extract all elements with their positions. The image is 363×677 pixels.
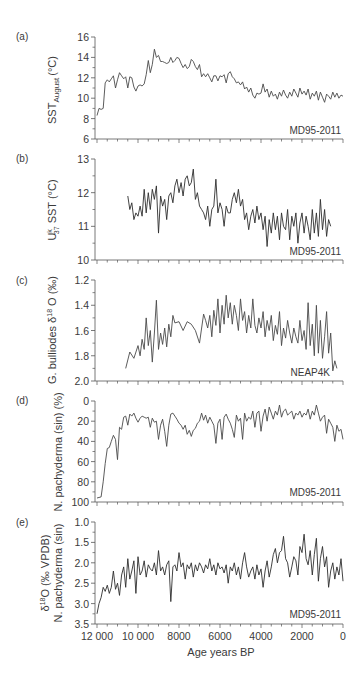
svg-text:1.2: 1.2 (74, 274, 89, 286)
panel-c: (c) G. bulliodes δ18 O (‰) NEAP4K 1.21.4… (16, 274, 343, 387)
svg-text:3.5: 3.5 (74, 618, 89, 630)
svg-text:80: 80 (77, 476, 89, 488)
x-axis-c (95, 381, 343, 385)
svg-text:60: 60 (77, 456, 89, 468)
y-axis-c: 1.21.41.61.82.0 (74, 274, 95, 387)
svg-text:1.8: 1.8 (74, 350, 89, 362)
x-axis-a (95, 139, 343, 143)
panel-label-b: (b) (16, 153, 28, 164)
panel-a: (a) SSTAugust(°C) MD95-2011 6810121416 (16, 31, 343, 145)
svg-text:1.6: 1.6 (74, 325, 89, 337)
panel-label-e: (e) (16, 517, 28, 528)
y-axis-label-d: N. pachyderma (sin) (%) (52, 392, 64, 511)
data-line-b (128, 169, 331, 246)
panel-b: (b) Uk37 SST (°C) MD95-2011 10111213 (16, 153, 343, 266)
x-axis-b (95, 260, 343, 264)
data-line-e (97, 534, 343, 614)
x-axis-e (95, 624, 343, 628)
svg-text:4000: 4000 (249, 630, 273, 642)
core-label-e: MD95-2011 (289, 609, 341, 620)
x-axis-label: Age years BP (187, 646, 254, 658)
svg-text:16: 16 (77, 31, 89, 43)
svg-text:40: 40 (77, 435, 89, 447)
y-axis-label-b: Uk37 SST (°C) (46, 179, 60, 240)
y-axis-label-c: G. bulliodes δ18 O (‰) (46, 276, 58, 384)
svg-text:12: 12 (77, 187, 89, 199)
panel-label-c: (c) (16, 275, 28, 286)
figure: (a) SSTAugust(°C) MD95-2011 6810121416 (… (0, 0, 363, 677)
svg-text:10 000: 10 000 (122, 630, 154, 642)
svg-text:2000: 2000 (290, 630, 314, 642)
x-tick-labels: 12 00010 00080006000400020000 (81, 630, 346, 642)
svg-text:1.0: 1.0 (74, 516, 89, 528)
panel-label-d: (d) (16, 395, 28, 406)
svg-text:20: 20 (77, 415, 89, 427)
svg-text:0: 0 (340, 630, 346, 642)
svg-text:6: 6 (83, 133, 89, 145)
core-label-d: MD95-2011 (289, 487, 341, 498)
panel-label-a: (a) (16, 31, 28, 42)
svg-text:2.0: 2.0 (74, 375, 89, 387)
y-axis-label-e-line2: N. pachyderma (sin) (52, 523, 64, 622)
svg-text:0: 0 (83, 395, 89, 407)
core-label-c: NEAP4K (291, 367, 331, 378)
svg-text:8: 8 (83, 113, 89, 125)
panel-d: (d) N. pachyderma (sin) (%) MD95-2011 02… (16, 392, 343, 511)
y-axis-b: 10111213 (77, 153, 95, 266)
y-axis-e: 1.01.52.02.53.03.5 (74, 516, 95, 630)
panel-e: (e) δ18O (‰ VPDB) N. pachyderma (sin) MD… (16, 516, 346, 642)
svg-text:2.5: 2.5 (74, 577, 89, 589)
svg-text:12 000: 12 000 (81, 630, 113, 642)
y-axis-label-a: SSTAugust(°C) (46, 56, 61, 124)
data-line-d (97, 405, 343, 498)
y-axis-a: 6810121416 (77, 31, 95, 145)
svg-text:8000: 8000 (167, 630, 191, 642)
y-axis-label-e-line1: δ18O (‰ VPDB) (39, 535, 51, 612)
data-line-c (126, 295, 337, 371)
svg-text:12: 12 (77, 72, 89, 84)
svg-text:11: 11 (78, 220, 89, 232)
svg-text:6000: 6000 (208, 630, 232, 642)
svg-text:13: 13 (77, 153, 89, 165)
core-label-a: MD95-2011 (289, 125, 341, 136)
svg-text:1.5: 1.5 (74, 536, 89, 548)
svg-text:1.4: 1.4 (74, 299, 89, 311)
core-label-b: MD95-2011 (289, 246, 341, 257)
y-axis-d: 020406080100 (71, 395, 95, 508)
svg-text:14: 14 (77, 51, 89, 63)
svg-text:10: 10 (77, 92, 89, 104)
svg-text:2.0: 2.0 (74, 557, 89, 569)
svg-text:100: 100 (71, 496, 89, 508)
svg-text:10: 10 (77, 254, 89, 266)
svg-text:3.0: 3.0 (74, 598, 89, 610)
x-axis-d (95, 502, 343, 506)
data-line-a (97, 49, 343, 115)
